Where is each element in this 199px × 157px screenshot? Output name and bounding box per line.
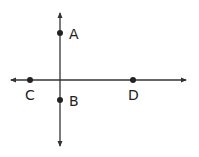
point-a-label: A	[69, 26, 79, 42]
point-b-label: B	[69, 93, 79, 109]
point-a	[57, 30, 63, 36]
point-c-label: C	[25, 87, 35, 103]
point-b	[57, 97, 63, 103]
point-d-label: D	[128, 87, 139, 103]
point-c	[27, 77, 33, 83]
point-d	[130, 77, 136, 83]
diagram-canvas: A B C D	[0, 0, 199, 157]
